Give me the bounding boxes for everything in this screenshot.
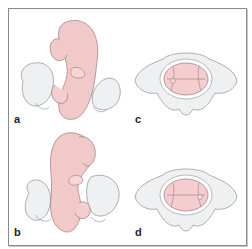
panel-b: b <box>9 127 127 245</box>
pelvis-illustration-c <box>127 9 245 127</box>
panel-a: a <box>9 9 127 127</box>
panel-c: c <box>127 9 245 127</box>
fetus-illustration-a <box>9 9 127 127</box>
panel-label-c: c <box>135 114 141 125</box>
pelvis-illustration-d <box>127 127 245 245</box>
fetus-illustration-b <box>9 127 127 245</box>
panel-label-a: a <box>14 114 20 125</box>
panel-label-d: d <box>135 227 142 238</box>
panel-d: d <box>127 127 245 245</box>
panel-label-b: b <box>14 227 21 238</box>
